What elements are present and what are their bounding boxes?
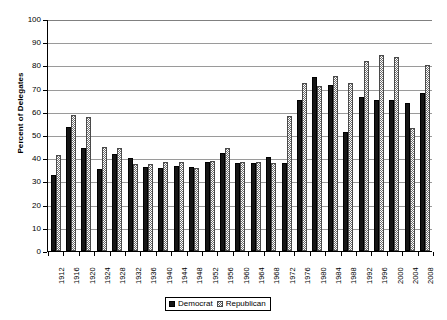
y-tick-label-50: 50	[11, 132, 41, 140]
y-tick-label-80: 80	[11, 62, 41, 70]
x-tick-label-1916: 1916	[73, 267, 81, 284]
bar-group	[125, 20, 140, 251]
x-tick-label-1912: 1912	[58, 267, 66, 284]
y-tick-label-70: 70	[11, 86, 41, 94]
bar-republican-1940	[163, 162, 168, 251]
y-tick-mark-90	[43, 43, 47, 44]
y-tick-label-10: 10	[11, 225, 41, 233]
bar-republican-1952	[210, 161, 215, 251]
bar-republican-1944	[179, 162, 184, 251]
bar-republican-1912	[56, 155, 61, 251]
y-tick-label-0: 0	[11, 248, 41, 256]
x-tick-label-1948: 1948	[196, 267, 204, 284]
x-tick-mark	[402, 252, 403, 256]
bar-group	[110, 20, 125, 251]
x-tick-label-1984: 1984	[335, 267, 343, 284]
x-tick-label-1936: 1936	[150, 267, 158, 284]
bar-group	[63, 20, 78, 251]
bar-group	[202, 20, 217, 251]
x-tick-mark	[248, 252, 249, 256]
y-tick-mark-70	[43, 90, 47, 91]
x-tick-label-1964: 1964	[258, 267, 266, 284]
bar-republican-1972	[287, 116, 292, 251]
bar-republican-1992	[364, 61, 369, 251]
bar-group	[418, 20, 433, 251]
x-tick-label-1956: 1956	[227, 267, 235, 284]
y-tick-mark-10	[43, 229, 47, 230]
y-tick-label-60: 60	[11, 109, 41, 117]
bar-group	[264, 20, 279, 251]
y-tick-label-20: 20	[11, 202, 41, 210]
bar-group	[279, 20, 294, 251]
bar-group	[387, 20, 402, 251]
x-tick-label-1932: 1932	[135, 267, 143, 284]
x-axis-labels: 1912191619201924192819321936194019441948…	[47, 258, 432, 298]
plot-area	[47, 20, 432, 252]
x-tick-mark	[356, 252, 357, 256]
bar-republican-1932	[133, 164, 138, 251]
x-tick-mark	[387, 252, 388, 256]
y-tick-label-90: 90	[11, 39, 41, 47]
x-tick-mark	[125, 252, 126, 256]
bar-republican-1968	[271, 163, 276, 251]
y-tick-mark-20	[43, 206, 47, 207]
x-tick-label-2004: 2004	[412, 267, 420, 284]
bar-republican-1984	[333, 76, 338, 251]
x-tick-mark	[187, 252, 188, 256]
legend-swatch-republican	[217, 301, 223, 307]
x-tick-mark	[48, 252, 49, 256]
bar-republican-1928	[117, 148, 122, 251]
y-tick-mark-50	[43, 136, 47, 137]
y-tick-label-40: 40	[11, 155, 41, 163]
bar-group	[187, 20, 202, 251]
y-tick-mark-60	[43, 113, 47, 114]
bar-group	[79, 20, 94, 251]
bar-group	[171, 20, 186, 251]
legend-swatch-democrat	[169, 301, 175, 307]
x-tick-label-1996: 1996	[381, 267, 389, 284]
x-tick-label-1924: 1924	[104, 267, 112, 284]
x-tick-label-1988: 1988	[350, 267, 358, 284]
x-tick-mark	[63, 252, 64, 256]
x-tick-label-2000: 2000	[397, 267, 405, 284]
x-tick-mark	[94, 252, 95, 256]
x-tick-mark	[110, 252, 111, 256]
bar-chart: Percent of Delegates 0102030405060708090…	[0, 0, 447, 320]
bar-republican-1956	[225, 148, 230, 251]
bar-republican-1916	[71, 115, 76, 251]
bar-group	[341, 20, 356, 251]
x-tick-label-1940: 1940	[166, 267, 174, 284]
x-tick-label-1968: 1968	[273, 267, 281, 284]
x-tick-mark	[310, 252, 311, 256]
bar-republican-2004	[410, 128, 415, 251]
x-tick-label-1960: 1960	[243, 267, 251, 284]
bar-republican-1996	[379, 55, 384, 251]
bar-group	[140, 20, 155, 251]
bar-group	[248, 20, 263, 251]
x-tick-label-1976: 1976	[304, 267, 312, 284]
x-tick-mark	[279, 252, 280, 256]
x-tick-mark	[433, 252, 434, 256]
x-tick-mark	[79, 252, 80, 256]
bar-republican-1988	[348, 83, 353, 251]
y-tick-mark-40	[43, 159, 47, 160]
x-tick-mark	[341, 252, 342, 256]
x-tick-mark	[233, 252, 234, 256]
x-tick-mark	[418, 252, 419, 256]
x-tick-label-1928: 1928	[119, 267, 127, 284]
y-tick-mark-0	[43, 252, 47, 253]
bar-republican-2000	[394, 57, 399, 251]
bar-series-container	[48, 20, 432, 251]
bar-republican-1920	[86, 117, 91, 251]
bar-group	[371, 20, 386, 251]
bar-group	[217, 20, 232, 251]
legend-label-republican: Republican	[226, 299, 266, 309]
x-tick-mark	[202, 252, 203, 256]
y-tick-label-100: 100	[11, 16, 41, 24]
bar-republican-1936	[148, 164, 153, 251]
y-tick-label-30: 30	[11, 178, 41, 186]
y-tick-mark-100	[43, 20, 47, 21]
legend-item-republican: Republican	[217, 299, 266, 309]
bar-group	[233, 20, 248, 251]
legend-item-democrat: Democrat	[169, 299, 213, 309]
